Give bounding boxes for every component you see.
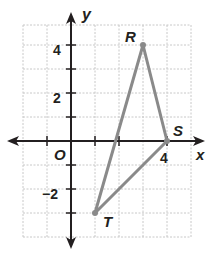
y-axis-label: y — [81, 6, 92, 23]
y-tick-label-2: 2 — [53, 90, 61, 106]
point-S — [164, 138, 170, 144]
point-label-T: T — [103, 213, 114, 230]
point-label-R: R — [125, 28, 136, 45]
origin-label: O — [54, 146, 66, 163]
triangle-RST — [95, 45, 167, 213]
point-label-S: S — [173, 122, 183, 139]
y-tick-label-4: 4 — [53, 42, 61, 58]
x-tick-label-4: 4 — [160, 150, 168, 166]
point-T — [92, 210, 98, 216]
axes — [12, 18, 200, 243]
coordinate-plane: y x O 4 4 2 −2 R S T — [0, 0, 211, 255]
point-R — [140, 42, 146, 48]
x-axis-label: x — [195, 146, 205, 163]
y-tick-label-neg2: −2 — [42, 186, 58, 202]
